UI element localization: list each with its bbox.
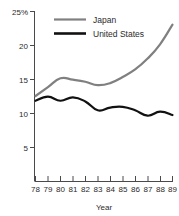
x-tick-label: 86 xyxy=(131,185,140,194)
x-tick-label: 89 xyxy=(168,185,177,194)
x-tick-label: 87 xyxy=(144,185,153,194)
line-chart: 25% 20 15 10 5 78 79 80 81 82 xyxy=(0,0,179,216)
chart-canvas: 25% 20 15 10 5 78 79 80 81 82 xyxy=(0,0,179,216)
y-tick-label: 15 xyxy=(19,76,28,85)
legend-label-united-states: United States xyxy=(93,29,144,39)
x-tick-label: 80 xyxy=(56,185,65,194)
x-axis-title: Year xyxy=(96,203,113,212)
legend-label-japan: Japan xyxy=(93,15,116,25)
x-tick-label: 85 xyxy=(119,185,128,194)
x-tick-label: 82 xyxy=(81,185,90,194)
y-tick-label: 5 xyxy=(24,144,29,153)
y-tick-label: 10 xyxy=(19,110,28,119)
x-tick-label: 83 xyxy=(94,185,103,194)
x-tick-label: 84 xyxy=(106,185,115,194)
chart-background xyxy=(0,0,179,216)
y-tick-label: 20 xyxy=(19,42,28,51)
x-tick-label: 88 xyxy=(156,185,165,194)
x-tick-label: 81 xyxy=(69,185,78,194)
x-tick-label: 78 xyxy=(31,185,40,194)
y-tick-label: 25% xyxy=(12,8,28,17)
x-tick-label: 79 xyxy=(44,185,53,194)
